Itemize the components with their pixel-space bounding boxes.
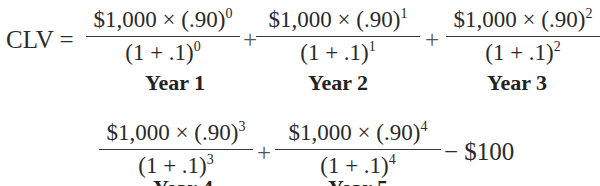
numerator: $1,000 × (.90)0: [86, 6, 240, 36]
denominator: (1 + .1)0: [86, 37, 240, 69]
numerator-exponent: 0: [225, 6, 232, 21]
denominator-exponent: 3: [207, 152, 214, 167]
denominator-text: (1 + .1): [125, 40, 194, 65]
numerator: $1,000 × (.90)4: [275, 119, 441, 149]
denominator-exponent: 2: [554, 39, 561, 54]
numerator-text: $1,000 × (.90): [94, 7, 226, 32]
minus-cost-term: − $100: [444, 138, 514, 166]
denominator-exponent: 0: [194, 39, 201, 54]
denominator-exponent: 1: [369, 39, 376, 54]
numerator-exponent: 2: [585, 6, 592, 21]
numerator-text: $1,000 × (.90): [107, 120, 239, 145]
plus-operator: +: [425, 26, 439, 54]
denominator-exponent: 4: [389, 152, 396, 167]
year-label: Year 4: [128, 175, 238, 186]
year-label: Year 2: [283, 70, 393, 96]
fraction-year-3: $1,000 × (.90)2 (1 + .1)2: [446, 6, 600, 69]
numerator-text: $1,000 × (.90): [289, 120, 421, 145]
numerator-exponent: 1: [400, 6, 407, 21]
numerator-exponent: 3: [238, 119, 245, 134]
numerator-text: $1,000 × (.90): [269, 7, 401, 32]
denominator-text: (1 + .1): [485, 40, 554, 65]
numerator-text: $1,000 × (.90): [454, 7, 586, 32]
denominator: (1 + .1)1: [256, 37, 420, 69]
numerator-exponent: 4: [420, 119, 427, 134]
denominator-text: (1 + .1): [300, 40, 369, 65]
plus-operator: +: [257, 139, 271, 167]
fraction-year-4: $1,000 × (.90)3 (1 + .1)3: [99, 119, 253, 182]
fraction-year-5: $1,000 × (.90)4 (1 + .1)4: [275, 119, 441, 182]
numerator: $1,000 × (.90)2: [446, 6, 600, 36]
fraction-year-2: $1,000 × (.90)1 (1 + .1)1: [256, 6, 420, 69]
fraction-year-1: $1,000 × (.90)0 (1 + .1)0: [86, 6, 240, 69]
plus-operator: +: [243, 26, 257, 54]
numerator: $1,000 × (.90)3: [99, 119, 253, 149]
clv-lhs: CLV =: [6, 26, 74, 54]
denominator: (1 + .1)2: [446, 37, 600, 69]
year-label: Year 3: [462, 70, 572, 96]
year-label: Year 5: [303, 175, 413, 186]
year-label: Year 1: [120, 70, 230, 96]
numerator: $1,000 × (.90)1: [256, 6, 420, 36]
